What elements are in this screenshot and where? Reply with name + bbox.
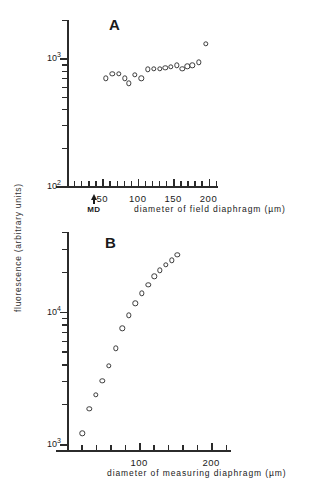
- data-point: [139, 290, 144, 295]
- data-point: [145, 67, 150, 72]
- data-point: [163, 65, 168, 70]
- x-tick-label: 150: [164, 194, 181, 204]
- panel-a-x-axis-caption: diameter of field diaphragm (µm): [134, 204, 286, 214]
- data-point: [190, 63, 195, 68]
- y-tick-major: [60, 58, 67, 60]
- data-point: [163, 262, 168, 267]
- md-arrow-stem: [93, 199, 95, 204]
- data-point: [169, 257, 174, 262]
- y-tick-label: 103: [47, 439, 61, 448]
- y-axis-label: fluorescence (arbitrary units): [13, 183, 23, 312]
- data-point: [116, 71, 121, 76]
- data-point: [126, 80, 131, 85]
- data-point: [203, 41, 208, 46]
- data-point: [120, 325, 125, 330]
- panel-b-x-axis-caption: diameter of measuring diaphragm (µm): [107, 468, 287, 478]
- md-label: MD: [87, 205, 100, 214]
- data-point: [139, 75, 144, 80]
- data-point: [175, 252, 180, 257]
- x-tick-label: 100: [129, 194, 146, 204]
- x-tick-label: 100: [130, 458, 147, 468]
- data-point: [126, 313, 131, 318]
- y-tick-label: 102: [47, 182, 61, 191]
- data-point: [100, 378, 105, 383]
- y-tick-major: [60, 444, 67, 446]
- data-point: [168, 64, 173, 69]
- panel-a: A 103102 50100150200 MD: [67, 20, 217, 186]
- x-tick-label: 200: [200, 194, 217, 204]
- panel-b-data-points: [67, 232, 227, 450]
- data-point: [93, 392, 98, 397]
- panel-b-x-axis: [56, 450, 231, 452]
- panel-a-data-points: [67, 20, 217, 186]
- y-tick-minor: [62, 450, 67, 451]
- data-point: [157, 66, 162, 71]
- y-tick-label: 103: [47, 54, 61, 63]
- data-point: [196, 60, 201, 65]
- panel-a-x-axis: [56, 186, 218, 188]
- x-tick-label: 200: [202, 458, 219, 468]
- data-point: [106, 363, 111, 368]
- y-tick-label: 104: [47, 307, 61, 316]
- data-point: [110, 71, 115, 76]
- data-point: [133, 300, 138, 305]
- data-point: [132, 72, 137, 77]
- y-tick-major: [60, 186, 67, 188]
- data-point: [174, 63, 179, 68]
- data-point: [152, 274, 157, 279]
- data-point: [151, 66, 156, 71]
- data-point: [157, 268, 162, 273]
- data-point: [113, 345, 118, 350]
- panel-b: B 104103 100200: [67, 232, 227, 450]
- data-point: [79, 431, 84, 436]
- y-tick-major: [60, 312, 67, 314]
- data-point: [87, 406, 92, 411]
- data-point: [146, 282, 151, 287]
- data-point: [103, 75, 108, 80]
- md-marker: MD: [82, 194, 106, 218]
- figure-root: fluorescence (arbitrary units) A 103102 …: [0, 0, 315, 490]
